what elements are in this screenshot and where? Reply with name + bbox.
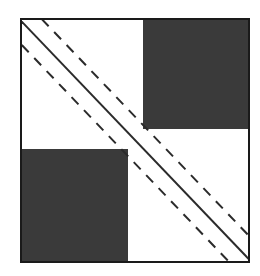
matrix-outline [20, 18, 250, 263]
figure-root [0, 0, 260, 276]
top-right-block [143, 20, 248, 129]
bottom-left-block [22, 149, 128, 261]
